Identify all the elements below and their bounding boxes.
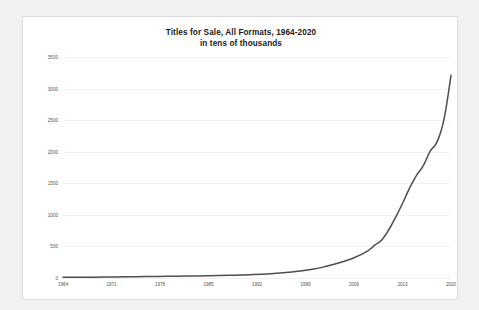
x-axis-tick-label: 1978 — [155, 282, 165, 287]
series-line-chart — [63, 57, 451, 278]
chart-title: Titles for Sale, All Formats, 1964-2020 — [23, 27, 459, 38]
chart-title-block: Titles for Sale, All Formats, 1964-2020 … — [23, 27, 459, 49]
chart-subtitle: in tens of thousands — [23, 38, 459, 49]
chart-panel: Titles for Sale, All Formats, 1964-2020 … — [22, 16, 458, 300]
series-line-path — [63, 75, 451, 277]
y-axis-tick-label: 3000 — [48, 86, 58, 91]
x-axis-tick-label: 1992 — [252, 282, 262, 287]
x-axis-tick-label: 2013 — [397, 282, 407, 287]
y-axis-tick-label: 1000 — [48, 212, 58, 217]
y-axis-tick-label: 500 — [50, 244, 58, 249]
y-axis-tick-label: 1500 — [48, 181, 58, 186]
plot-area — [63, 57, 451, 278]
y-axis-tick-label: 2000 — [48, 149, 58, 154]
x-axis-tick-label: 1971 — [106, 282, 116, 287]
screenshot-root: Titles for Sale, All Formats, 1964-2020 … — [0, 0, 479, 310]
x-axis-tick-label: 2020 — [446, 282, 456, 287]
y-axis-tick-label: 0 — [55, 276, 58, 281]
y-axis-tick-label: 2500 — [48, 118, 58, 123]
gridline — [63, 278, 451, 279]
x-axis-tick-label: 1999 — [300, 282, 310, 287]
y-axis-tick-labels: 0500100015002000250030003500 — [23, 57, 61, 278]
x-axis-tick-label: 1964 — [58, 282, 68, 287]
x-axis-tick-label: 1985 — [203, 282, 213, 287]
x-axis-tick-labels: 196419711978198519921999200620132020 — [63, 282, 451, 294]
y-axis-tick-label: 3500 — [48, 55, 58, 60]
x-axis-tick-label: 2006 — [349, 282, 359, 287]
